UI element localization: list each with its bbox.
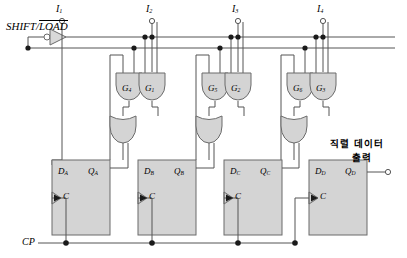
serial-output-label-line2: 출력: [352, 150, 372, 164]
ff-label-CC: C: [235, 191, 241, 201]
ff-label-DA: DA: [58, 166, 68, 176]
input-terminals: [59, 18, 325, 23]
gate-label-G2: G2: [231, 83, 240, 93]
ff-label-DC: DC: [230, 166, 240, 176]
wire-g2-to-or2: [238, 101, 244, 116]
control-bus-group: [28, 37, 395, 48]
gate-label-G5: G5: [208, 83, 217, 93]
wire-g3-to-or3: [323, 101, 329, 116]
gate-label-G4: G4: [122, 83, 131, 93]
or-to-d-wires: [123, 143, 294, 160]
ff-label-DB: DB: [144, 166, 154, 176]
wire-g6-to-or3: [294, 101, 300, 116]
ff-label-QD: QD: [345, 166, 356, 176]
serial-output-group: [367, 169, 391, 174]
gate-label-G1: G1: [145, 83, 154, 93]
ff-label-DD: DD: [315, 166, 326, 176]
wire-g4-to-or1: [123, 101, 129, 116]
gate-label-G6: G6: [293, 83, 302, 93]
terminal-I4[interactable]: [320, 18, 325, 23]
shift-load-label: SHIFT/LOAD: [6, 20, 68, 32]
ff-label-QC: QC: [260, 166, 270, 176]
serial-output-label-line1: 직렬 데이터: [330, 136, 384, 150]
ff-label-CB: C: [149, 191, 155, 201]
input-label-I1: I1: [56, 3, 62, 14]
input-label-I4: I4: [317, 3, 323, 14]
fb-qB-up: [196, 154, 214, 168]
ff-label-QB: QB: [174, 166, 184, 176]
ff-label-CA: C: [63, 191, 69, 201]
or-gate-3: [281, 116, 307, 143]
terminal-I2[interactable]: [149, 18, 154, 23]
clk-branch-D: [295, 198, 309, 243]
ff-label-QA: QA: [88, 166, 98, 176]
terminal-I3[interactable]: [235, 18, 240, 23]
or-gate-1: [110, 116, 136, 143]
wire-g1-to-or1: [152, 101, 158, 116]
or-gate-2: [196, 116, 222, 143]
parallel-input-lines: [62, 22, 323, 165]
clock-label: CP: [22, 236, 35, 247]
wire-g5-to-or2: [209, 101, 215, 116]
fb-qC-up: [282, 154, 299, 168]
and-to-or-wires: [123, 101, 329, 116]
input-label-I3: I3: [232, 3, 238, 14]
ff-label-CD: C: [320, 191, 326, 201]
fb-qA-up: [110, 154, 128, 168]
input-label-I2: I2: [146, 3, 152, 14]
terminal-serial-out[interactable]: [385, 169, 390, 174]
circuit-diagram: SHIFT/LOAD I1 I2 I3 I4 G4 G1 G5 G2 G6 G3…: [0, 0, 407, 258]
circuit-svg: [0, 0, 407, 258]
gate-label-G3: G3: [316, 83, 325, 93]
